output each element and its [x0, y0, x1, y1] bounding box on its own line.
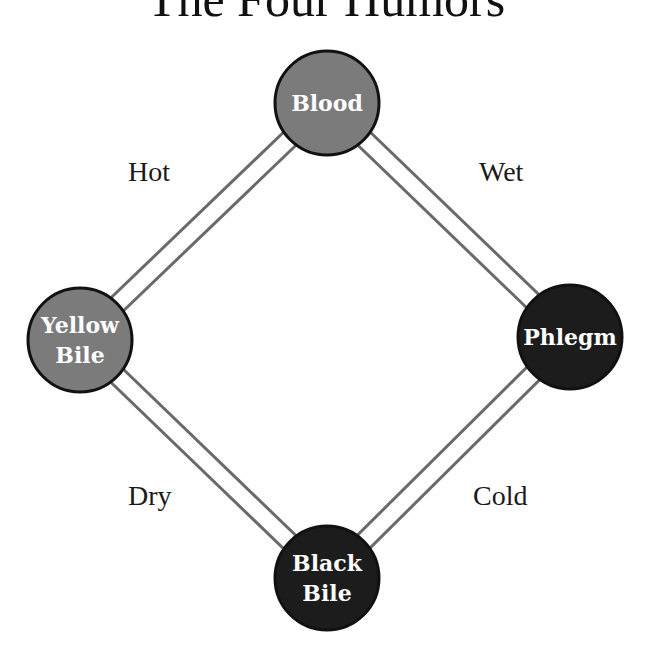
- quality-dry: Dry: [128, 480, 172, 512]
- quality-cold: Cold: [473, 480, 527, 512]
- quality-wet: Wet: [479, 156, 523, 188]
- humor-node-blood: Blood: [275, 51, 379, 155]
- humor-label: Blood: [291, 90, 363, 116]
- humor-label: Yellow: [40, 312, 120, 338]
- humor-label: Black: [292, 550, 363, 576]
- humors-diagram: BloodYellowBilePhlegmBlackBile: [0, 0, 652, 671]
- humor-node-black-bile: BlackBile: [275, 526, 379, 630]
- humor-label: Phlegm: [523, 324, 617, 350]
- quality-hot: Hot: [128, 156, 170, 188]
- humor-label: Bile: [302, 580, 351, 606]
- humor-circle: [28, 288, 132, 392]
- humor-node-phlegm: Phlegm: [518, 285, 622, 389]
- humor-node-yellow-bile: YellowBile: [28, 288, 132, 392]
- humor-circle: [275, 526, 379, 630]
- humor-label: Bile: [55, 342, 104, 368]
